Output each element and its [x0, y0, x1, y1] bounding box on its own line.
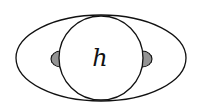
center-label: h [92, 44, 107, 72]
diagram-canvas: h [0, 0, 199, 112]
